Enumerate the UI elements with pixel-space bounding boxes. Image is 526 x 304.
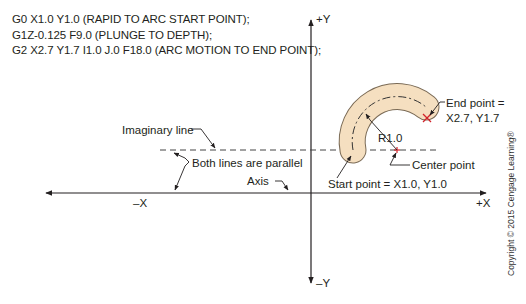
end-point-label-2: X2.7, Y1.7 [446, 111, 500, 125]
minus-x-label: –X [133, 196, 147, 210]
coordinate-diagram [0, 0, 526, 304]
axis-label: Axis [247, 174, 269, 188]
plus-x-label: +X [476, 196, 490, 210]
end-point-label-1: End point = [446, 96, 505, 110]
imaginary-line-label: Imaginary line [122, 123, 194, 137]
copyright-notice: Copyright © 2015 Cengage Learning® [506, 131, 516, 276]
axis-leader [275, 181, 288, 190]
imaginary-line-leader [191, 129, 215, 148]
center-point-leader [390, 153, 410, 165]
radius-label: R1.0 [378, 131, 402, 145]
start-point-label: Start point = X1.0, Y1.0 [328, 177, 447, 191]
parallel-leader-bottom [175, 162, 189, 190]
plus-y-label: +Y [316, 12, 330, 26]
center-point-label: Center point [412, 158, 475, 172]
minus-y-label: –Y [316, 276, 330, 290]
parallel-leader-top [174, 153, 189, 162]
both-parallel-label: Both lines are parallel [192, 156, 303, 170]
